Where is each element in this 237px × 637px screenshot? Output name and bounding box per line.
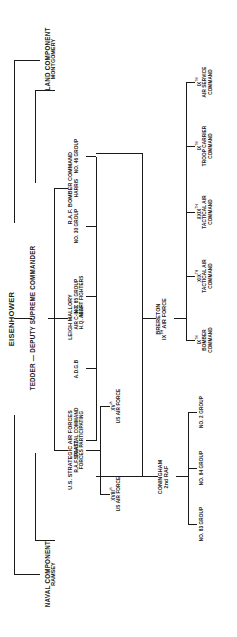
deputy-supreme-commander-label: TEDDER — DEPUTY SUPREME COMMANDER [29, 187, 36, 449]
ninth-af-child-2-drop [186, 212, 195, 213]
ninth-af-child-4-line2: COMMAND [208, 51, 213, 113]
lower-tier-riser-9af [142, 318, 156, 319]
ninth-af-child-4: IXTH AIR SERVICE COMMAND [197, 51, 213, 113]
aeaf-child-4-drop [86, 156, 96, 157]
second-taf-child-2-drop [188, 412, 197, 413]
supreme-commander-label: EISENHOWER [8, 229, 17, 409]
second-taf-children-bus [188, 413, 189, 525]
aeaf-child-2-line2: NIGHT FIGHTERS [79, 261, 84, 331]
riser-aeaf [48, 318, 68, 319]
second-taf-child-1: NO. 84 GROUP [199, 437, 204, 499]
eisenhower-spine-right [14, 61, 15, 223]
aeaf-child-3: NO. 30 GROUP [74, 195, 79, 257]
ninth-af-child-0-line2: COMMAND [208, 309, 213, 371]
command-structure-chart: EISENHOWER TEDDER — DEPUTY SUPREME COMMA… [0, 0, 237, 637]
second-taf-title: 2nd RAF [164, 435, 170, 519]
ninth-af-child-0-drop [186, 340, 195, 341]
second-taf-child-1-drop [188, 468, 197, 469]
second-taf-child-0-drop [188, 524, 197, 525]
aeaf-child-2-drop [86, 296, 96, 297]
aeaf-child-1-line1: A.D.G.B [74, 339, 79, 399]
riser-bomber-command [54, 188, 68, 189]
land-component-commander: MONTGOMERY [51, 9, 57, 109]
ninth-air-force-node: BRERETON IXTH AIR FORCE [156, 273, 168, 365]
riser-strategic [54, 450, 68, 451]
ninth-af-child-3-line2: COMMAND [208, 113, 213, 179]
second-taf-child-2-label: NO. 2 GROUP [199, 381, 204, 443]
second-taf-child-0: NO. 83 GROUP [199, 493, 204, 555]
chart-rotation-wrapper: EISENHOWER TEDDER — DEPUTY SUPREME COMMA… [0, 0, 237, 637]
second-taf-child-1-label: NO. 84 GROUP [199, 437, 204, 499]
naval-component-commander: RAMSEY [51, 525, 57, 623]
drop-to-land [14, 60, 40, 61]
aeaf-child-0: R.A.F. COASTAL COMMAND FORCES PARTICIPAT… [74, 401, 85, 479]
air-component-bus [54, 189, 55, 451]
ninth-af-child-2-line2: COMMAND [208, 181, 213, 243]
aeaf-child-3-drop [86, 226, 96, 227]
tedder-band-left [35, 453, 36, 541]
lower-tier-riser-2taf [142, 476, 158, 477]
ninth-air-force-title: IXTH AIR FORCE [162, 273, 168, 365]
aeaf-child-2: NO. 85 GROUP NIGHT FIGHTERS [74, 261, 85, 331]
ninth-af-children-stem [174, 318, 186, 319]
land-component-node: LAND COMPONENT MONTGOMERY [44, 9, 57, 109]
aeaf-child-1-drop [86, 368, 96, 369]
naval-component-node: NAVAL COMPONENT RAMSEY [44, 525, 57, 623]
ninth-af-child-4-drop [186, 82, 195, 83]
ninth-af-child-1-line2: COMMAND [208, 245, 213, 307]
deputy-supreme-commander-text: TEDDER — DEPUTY SUPREME COMMANDER [29, 246, 36, 391]
ninth-af-child-3: IXTH TROOP CARRIER COMMAND [197, 113, 213, 179]
eisenhower-spine-left [14, 415, 15, 575]
second-taf-child-0-label: NO. 83 GROUP [199, 493, 204, 555]
aeaf-child-1: A.D.G.B [74, 339, 79, 399]
second-taf-children-stem [176, 476, 188, 477]
aeaf-child-0-drop [86, 440, 96, 441]
aeaf-child-3-line1: NO. 30 GROUP [74, 195, 79, 257]
strategic-child-0-drop [100, 494, 110, 495]
second-taf-child-2: NO. 2 GROUP [199, 381, 204, 443]
ninth-af-child-1: XIXTH TACTICAL AIR COMMAND [197, 245, 213, 307]
aeaf-child-0-line2: FORCES PARTICIPATING [79, 401, 84, 479]
aeaf-children-enclosure [96, 153, 143, 477]
ninth-af-child-2: XXIXTH TACTICAL AIR COMMAND [197, 181, 213, 243]
supreme-commander-name: EISENHOWER [7, 292, 16, 346]
aeaf-children-bus [96, 157, 97, 441]
second-taf-node: CONINGHAM 2nd RAF [158, 435, 170, 519]
ninth-af-child-1-drop [186, 276, 195, 277]
ninth-af-child-3-drop [186, 146, 195, 147]
aeaf-child-4-line1: NO. 46 GROUP [74, 125, 79, 187]
aeaf-child-4: NO. 46 GROUP [74, 125, 79, 187]
tedder-band-right [35, 91, 36, 183]
ninth-af-child-0: IXTH BOMBER COMMAND [197, 309, 213, 371]
drop-to-naval [14, 574, 40, 575]
